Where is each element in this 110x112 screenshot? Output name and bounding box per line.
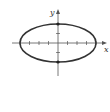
vertex-point-bottom	[56, 60, 59, 63]
ellipse-diagram: y x	[0, 0, 110, 112]
y-axis-label: y	[49, 8, 55, 17]
graph-canvas: y x	[0, 0, 110, 112]
x-axis-label: x	[104, 45, 109, 54]
vertex-point-top	[56, 22, 59, 25]
y-axis-arrow-icon	[56, 9, 60, 14]
